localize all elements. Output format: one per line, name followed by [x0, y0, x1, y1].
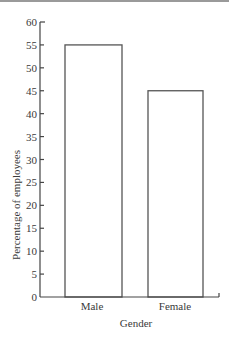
y-tick-label: 40	[26, 108, 38, 120]
y-tick-label: 15	[26, 222, 38, 234]
y-axis: 051015202530354045505560	[26, 16, 45, 303]
y-tick-label: 5	[32, 268, 38, 280]
y-tick-label: 60	[26, 16, 38, 28]
y-tick-label: 50	[26, 62, 38, 74]
bar-chart: 051015202530354045505560 MaleFemale Perc…	[0, 0, 229, 345]
y-tick-label: 35	[26, 131, 38, 143]
y-tick-label: 10	[26, 245, 38, 257]
y-axis-title: Percentage of employees	[10, 150, 22, 260]
y-tick-label: 30	[26, 154, 38, 166]
bar-male	[65, 45, 122, 297]
x-category-label-female: Female	[159, 300, 191, 312]
y-tick-label: 45	[26, 85, 38, 97]
y-tick-label: 20	[26, 199, 38, 211]
y-tick-label: 55	[26, 39, 38, 51]
x-category-label-male: Male	[81, 300, 104, 312]
y-tick-label: 25	[26, 176, 38, 188]
x-axis-title: Gender	[120, 317, 153, 329]
bar-female	[148, 91, 203, 297]
y-tick-label: 0	[32, 291, 38, 303]
bars: MaleFemale	[65, 45, 203, 312]
